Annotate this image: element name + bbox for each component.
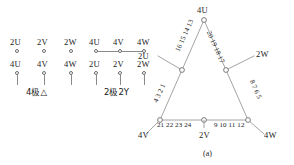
terminal2-label-top-1: 4U — [89, 38, 100, 47]
terminal-label-top-1: 2U — [10, 38, 21, 47]
terminal2-dot-top-2[interactable] — [118, 49, 122, 53]
terminal2-stem-1 — [96, 75, 97, 85]
edge-numbers-bottom-right: 9 10 11 12 — [214, 122, 245, 129]
terminal2-label-top-2: 4V — [113, 38, 124, 47]
tap-label-2v: 2V — [199, 131, 210, 140]
lead-4w — [248, 120, 264, 134]
node-2w-tap — [224, 68, 229, 73]
figure-caption: (a) — [203, 150, 212, 158]
tap-label-2u: 2U — [138, 52, 149, 61]
terminal2-dot-top-1[interactable] — [94, 49, 98, 53]
panel-caption-2pole-2y: 2极2Y — [104, 88, 129, 97]
terminal2-label-bottom-1: 2U — [89, 60, 100, 69]
terminal-label-bottom-3: 4W — [64, 60, 77, 69]
terminal-stem-1 — [17, 75, 18, 85]
lead-2u — [158, 56, 182, 70]
node-4w — [246, 118, 251, 123]
terminal-stem-2 — [44, 75, 45, 85]
terminal-dot-top-2[interactable] — [42, 49, 46, 53]
vertex-label-4w: 4W — [264, 131, 277, 140]
tap-label-2w: 2W — [256, 50, 269, 59]
figure-root: 2U 2V 2W 4U 4V 4W 4极△ 4U 4V 4W 2U 2V 2W — [0, 0, 294, 165]
terminal-label-top-2: 2V — [37, 38, 48, 47]
lead-2w — [226, 56, 254, 70]
node-2u-tap — [180, 68, 185, 73]
terminal-label-bottom-1: 4U — [10, 60, 21, 69]
terminal-dot-top-3[interactable] — [69, 49, 73, 53]
terminal2-stem-2 — [120, 75, 121, 85]
terminal-label-top-3: 2W — [64, 38, 77, 47]
terminal-stem-3 — [71, 75, 72, 85]
panel-caption-4pole-delta: 4极△ — [26, 88, 47, 97]
vertex-label-4u: 4U — [197, 6, 208, 15]
terminal-dot-top-1[interactable] — [15, 49, 19, 53]
vertex-label-4v: 4V — [138, 131, 149, 140]
terminal2-label-bottom-2: 2V — [113, 60, 124, 69]
node-4u — [202, 18, 207, 23]
terminal-label-bottom-2: 4V — [37, 60, 48, 69]
edge-numbers-bottom-left: 21 22 23 24 — [157, 122, 191, 129]
